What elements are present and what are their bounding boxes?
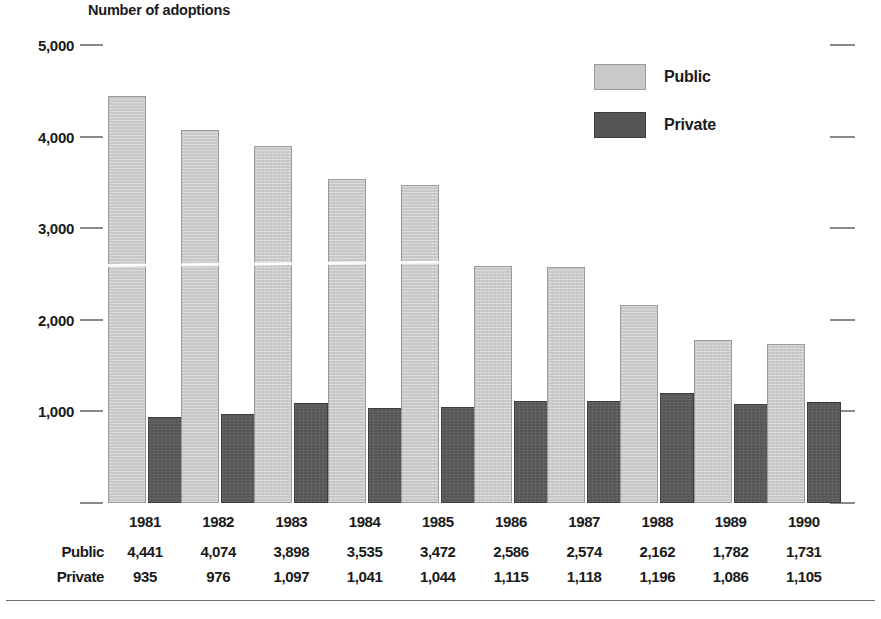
table-cell: 1,731: [753, 543, 855, 560]
table-cell: 1,105: [753, 568, 855, 585]
bar-private: [587, 401, 621, 503]
bar-public: [401, 185, 439, 503]
y-axis-tick-mark: [80, 44, 103, 46]
x-axis-label: 1990: [755, 513, 853, 530]
y-axis-tick-label: 5,000: [0, 37, 74, 54]
bar-private: [807, 402, 841, 503]
bar-private: [441, 407, 475, 503]
bar-private: [660, 393, 694, 503]
legend-label: Private: [664, 116, 716, 134]
bar-private: [368, 408, 402, 503]
plot-area: 5,0004,0003,0002,0001,000 19811982198319…: [0, 0, 881, 619]
bar-private: [734, 404, 768, 503]
y-axis-tick-label: 1,000: [0, 403, 74, 420]
table-row: Public4,4414,0743,8983,5353,4722,5862,57…: [0, 543, 881, 565]
bar-group: [474, 0, 548, 503]
bar-public: [108, 96, 146, 503]
bar-group: [108, 0, 182, 503]
table-row-header: Private: [0, 568, 104, 585]
table-row-header: Public: [0, 543, 104, 560]
y-axis-tick-label: 2,000: [0, 311, 74, 328]
bar-group: [328, 0, 402, 503]
bar-private: [294, 403, 328, 503]
table-row: Private9359761,0971,0411,0441,1151,1181,…: [0, 568, 881, 590]
bar-public: [547, 267, 585, 503]
y-axis-tick-label: 3,000: [0, 220, 74, 237]
bar-public: [620, 305, 658, 503]
bar-public: [328, 179, 366, 503]
bar-public: [254, 146, 292, 503]
bar-group: [181, 0, 255, 503]
bar-group: [254, 0, 328, 503]
bar-private: [221, 414, 255, 503]
bar-public: [181, 130, 219, 503]
legend-label: Public: [664, 68, 711, 86]
legend-swatch-icon: [594, 112, 646, 138]
legend-swatch-icon: [594, 64, 646, 90]
bar-public: [767, 344, 805, 503]
y-axis-tick-label: 4,000: [0, 128, 74, 145]
bottom-divider: [6, 600, 875, 601]
y-axis-tick-mark: [80, 410, 103, 412]
y-axis-tick-mark: [80, 136, 103, 138]
adoptions-bar-chart-figure: Number of adoptions 5,0004,0003,0002,000…: [0, 0, 881, 619]
bar-group: [767, 0, 841, 503]
legend-item: Private: [594, 110, 716, 140]
y-axis-tick-mark: [80, 502, 103, 504]
bar-public: [694, 340, 732, 503]
bar-private: [514, 401, 548, 503]
y-axis-tick-mark: [80, 319, 103, 321]
bar-group: [401, 0, 475, 503]
y-axis-tick-mark: [80, 227, 103, 229]
bar-private: [148, 417, 182, 503]
legend-item: Public: [594, 62, 716, 92]
bar-public: [474, 266, 512, 503]
chart-legend: PublicPrivate: [594, 62, 716, 158]
